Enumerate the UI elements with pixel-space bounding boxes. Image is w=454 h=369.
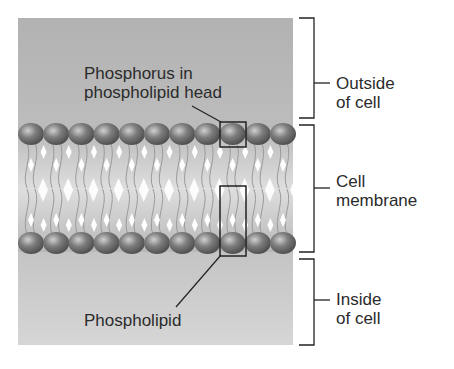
inside-bracket <box>299 259 330 345</box>
phospholipid-head <box>68 232 94 254</box>
inside-of-cell-label: Inside of cell <box>336 290 381 328</box>
phospholipid-head <box>18 123 44 145</box>
phospholipid-head <box>94 232 120 254</box>
phospholipid-head <box>169 232 195 254</box>
phospholipid-head <box>270 232 296 254</box>
phospholipid-head <box>18 232 44 254</box>
outer-phospholipid-heads <box>18 123 296 145</box>
phospholipid-head <box>270 123 296 145</box>
phosphorus-label: Phosphorus in phospholipid head <box>84 64 222 102</box>
phospholipid-head <box>119 123 145 145</box>
membrane-bracket <box>299 125 330 252</box>
phospholipid-head <box>220 123 246 145</box>
phospholipid-head <box>119 232 145 254</box>
phospholipid-head <box>43 123 69 145</box>
phospholipid-head <box>220 232 246 254</box>
phospholipid-head <box>144 232 170 254</box>
phospholipid-head <box>68 123 94 145</box>
phospholipid-head <box>94 123 120 145</box>
outside-of-cell-label: Outside of cell <box>336 74 395 112</box>
phospholipid-head <box>245 232 271 254</box>
cell-membrane-label: Cell membrane <box>336 172 417 210</box>
phospholipid-head <box>194 123 220 145</box>
phospholipid-label: Phospholipid <box>84 311 181 330</box>
inner-phospholipid-heads <box>18 232 296 254</box>
outside-bracket <box>299 18 330 118</box>
phospholipid-head <box>169 123 195 145</box>
phospholipid-head <box>194 232 220 254</box>
phospholipid-head <box>43 232 69 254</box>
phospholipid-head <box>245 123 271 145</box>
inside-region <box>18 252 293 345</box>
phospholipid-head <box>144 123 170 145</box>
